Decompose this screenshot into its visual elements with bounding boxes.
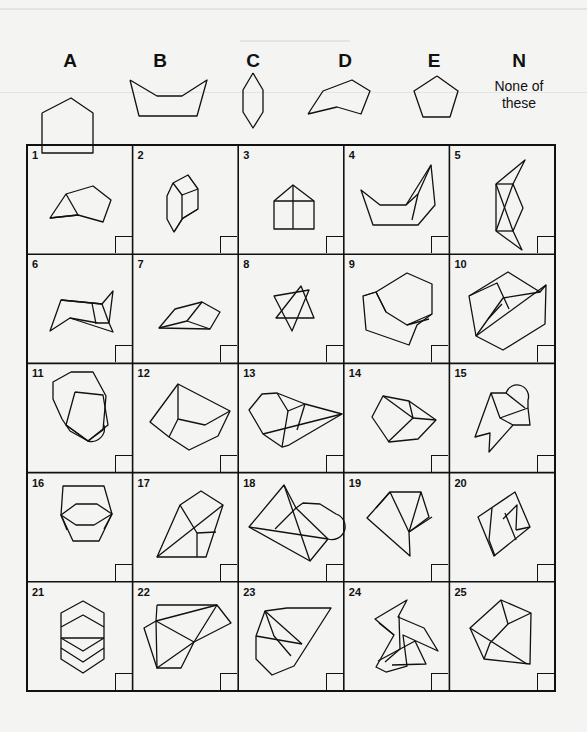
answer-box-18[interactable]: [326, 564, 343, 581]
figure-23: [256, 608, 331, 675]
figure-25: [470, 600, 531, 664]
cell-number: 16: [32, 477, 44, 489]
figure-24: [375, 600, 438, 672]
answer-box-21[interactable]: [115, 673, 132, 690]
answer-box-10[interactable]: [537, 345, 554, 362]
answer-box-20[interactable]: [537, 564, 554, 581]
cell-number: 11: [32, 367, 44, 379]
figure-22: [144, 605, 231, 668]
cell-number: 19: [349, 477, 361, 489]
answer-box-14[interactable]: [431, 455, 448, 472]
figure-6: [50, 291, 113, 332]
cell-number: 8: [243, 258, 249, 270]
answer-box-3[interactable]: [326, 236, 343, 253]
figure-12: [150, 384, 230, 450]
reference-shape-c: [243, 73, 263, 128]
cell-number: 12: [138, 367, 150, 379]
cell-number: 3: [243, 149, 249, 161]
figures-canvas: [0, 0, 587, 732]
figure-21: [61, 601, 104, 673]
cell-number: 9: [349, 258, 355, 270]
cell-number: 15: [454, 367, 466, 379]
answer-box-5[interactable]: [537, 236, 554, 253]
cell-number: 1: [32, 149, 38, 161]
figure-1: [50, 186, 111, 222]
figure-5: [496, 160, 525, 250]
cell-number: 7: [138, 258, 144, 270]
figure-16: [61, 486, 112, 541]
cell-number: 20: [454, 477, 466, 489]
answer-box-9[interactable]: [431, 345, 448, 362]
figure-20: [478, 492, 530, 556]
cell-number: 23: [243, 586, 255, 598]
cell-number: 18: [243, 477, 255, 489]
cell-number: 22: [138, 586, 150, 598]
answer-box-12[interactable]: [220, 455, 237, 472]
answer-box-4[interactable]: [431, 236, 448, 253]
figure-18: [249, 485, 345, 561]
answer-box-8[interactable]: [326, 345, 343, 362]
answer-box-24[interactable]: [431, 673, 448, 690]
answer-box-25[interactable]: [537, 673, 554, 690]
figure-4: [361, 165, 435, 225]
answer-box-7[interactable]: [220, 345, 237, 362]
reference-shape-outlines: [42, 73, 458, 153]
figure-19: [367, 492, 432, 556]
figure-13: [249, 393, 342, 447]
figure-2: [167, 175, 198, 232]
cell-number: 14: [349, 367, 361, 379]
cell-number: 4: [349, 149, 355, 161]
figure-14: [372, 396, 436, 442]
answer-box-16[interactable]: [115, 564, 132, 581]
answer-box-11[interactable]: [115, 455, 132, 472]
figure-7: [159, 302, 220, 329]
figure-11: [53, 372, 108, 441]
cell-number: 5: [454, 149, 460, 161]
figure-15: [475, 385, 530, 452]
cell-number: 24: [349, 586, 361, 598]
figure-17: [157, 491, 223, 557]
answer-box-17[interactable]: [220, 564, 237, 581]
answer-box-6[interactable]: [115, 345, 132, 362]
figure-10: [469, 272, 546, 350]
reference-shape-d: [308, 80, 370, 114]
cell-number: 10: [454, 258, 466, 270]
answer-box-2[interactable]: [220, 236, 237, 253]
answer-box-23[interactable]: [326, 673, 343, 690]
answer-box-1[interactable]: [115, 236, 132, 253]
answer-box-22[interactable]: [220, 673, 237, 690]
cell-number: 6: [32, 258, 38, 270]
answer-box-15[interactable]: [537, 455, 554, 472]
figure-8: [274, 286, 314, 331]
figure-3: [274, 185, 314, 229]
reference-shape-e: [414, 76, 458, 117]
figure-9: [363, 273, 432, 345]
reference-shape-b: [130, 80, 207, 116]
answer-box-13[interactable]: [326, 455, 343, 472]
cell-number: 21: [32, 586, 44, 598]
answer-box-19[interactable]: [431, 564, 448, 581]
cell-number: 13: [243, 367, 255, 379]
cell-number: 25: [454, 586, 466, 598]
cell-number: 17: [138, 477, 150, 489]
cell-number: 2: [138, 149, 144, 161]
